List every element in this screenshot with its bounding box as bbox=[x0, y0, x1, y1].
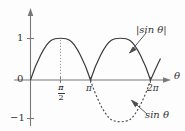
abs-sin-leader-arrow bbox=[130, 47, 137, 53]
x-tick-label-two-pi: 2π bbox=[147, 84, 159, 93]
x-axis-arrow-head bbox=[163, 77, 171, 83]
sine-absolute-value-figure: 1 0 −1 π 2 π 2π θ |sin θ| sin θ bbox=[0, 0, 185, 131]
pi-over-two-numerator: π bbox=[54, 84, 68, 92]
y-axis-arrow-head bbox=[28, 8, 34, 16]
y-tick-label-one: 1 bbox=[17, 33, 23, 43]
x-tick-label-pi-over-two: π 2 bbox=[54, 84, 68, 103]
abs-sin-curve-tail bbox=[151, 59, 161, 81]
annotation-leaders bbox=[130, 33, 148, 114]
abs-sin-curve-label: |sin θ| bbox=[136, 25, 167, 35]
sin-curve-dashed bbox=[91, 80, 151, 122]
y-tick-label-minus-one: −1 bbox=[10, 113, 25, 123]
x-axis-label-theta: θ bbox=[174, 71, 180, 81]
abs-sin-curve bbox=[31, 38, 151, 80]
pi-over-two-denominator: 2 bbox=[54, 94, 68, 102]
y-tick-label-zero: 0 bbox=[17, 74, 23, 84]
x-tick-label-pi: π bbox=[86, 84, 92, 93]
sin-curve-label: sin θ bbox=[145, 110, 169, 120]
